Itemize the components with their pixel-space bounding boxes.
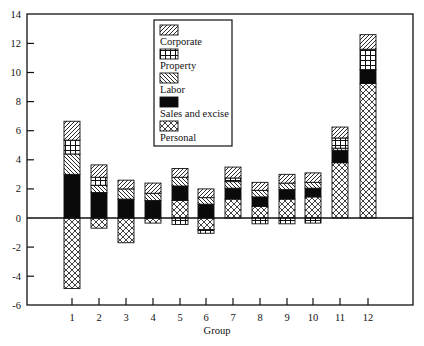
- y-tick-label: 14: [11, 9, 22, 20]
- bar-segment-personal: [332, 163, 348, 218]
- y-tick-label: -2: [12, 242, 21, 253]
- x-tick-label: 4: [150, 312, 156, 323]
- bar-segment-corporate: [198, 189, 214, 198]
- stacked-bar-chart: 14121086420-2-4-6 123456789101112 Group …: [0, 0, 424, 346]
- bar-group-4: [145, 183, 161, 223]
- bar-segment-personal: [198, 218, 214, 230]
- bar-segment-labor: [118, 189, 134, 199]
- bar-segment-labor: [172, 177, 188, 186]
- bar-segment-property: [279, 218, 295, 224]
- bar-group-2: [91, 165, 107, 228]
- bar-segment-property: [360, 49, 376, 69]
- bar-segment-property: [225, 178, 241, 182]
- x-axis: 123456789101112: [69, 298, 373, 323]
- bar-segment-sales-and-excise: [252, 197, 268, 206]
- bar-segment-property: [172, 218, 188, 225]
- y-tick-label: 0: [16, 213, 21, 224]
- bar-segment-personal: [279, 199, 295, 218]
- legend-label: Property: [160, 60, 197, 71]
- legend: CorporatePropertyLaborSales and excisePe…: [154, 20, 232, 146]
- bar-segment-personal: [64, 218, 80, 289]
- x-tick-label: 6: [203, 312, 208, 323]
- bar-segment-sales-and-excise: [145, 201, 161, 218]
- bar-segment-sales-and-excise: [64, 174, 80, 218]
- bar-segment-personal: [305, 197, 321, 218]
- x-tick-label: 7: [230, 312, 235, 323]
- bar-segment-labor: [64, 154, 80, 174]
- bar-segment-sales-and-excise: [279, 190, 295, 199]
- bar-segment-corporate: [118, 180, 134, 189]
- bar-segment-corporate: [279, 174, 295, 183]
- bar-segment-labor: [279, 183, 295, 190]
- bar-segment-sales-and-excise: [118, 199, 134, 218]
- legend-label: Corporate: [160, 36, 202, 47]
- bar-segment-personal: [91, 218, 107, 228]
- y-tick-label: 6: [16, 125, 21, 136]
- x-tick-label: 10: [308, 312, 319, 323]
- x-tick-label: 8: [257, 312, 262, 323]
- bar-group-9: [279, 174, 295, 223]
- bar-segment-property: [198, 230, 214, 234]
- bar-segment-personal: [118, 218, 134, 243]
- legend-swatch-labor: [160, 73, 178, 83]
- x-tick-label: 3: [123, 312, 128, 323]
- bar-segment-labor: [145, 193, 161, 200]
- bar-segment-personal: [360, 83, 376, 218]
- bar-segment-personal: [145, 218, 161, 223]
- x-axis-label: Group: [204, 325, 231, 336]
- legend-swatch-corporate: [160, 25, 178, 35]
- y-tick-label: 12: [11, 38, 22, 49]
- x-tick-label: 1: [69, 312, 74, 323]
- bar-group-12: [360, 35, 376, 218]
- bar-group-7: [225, 167, 241, 218]
- bar-segment-personal: [252, 206, 268, 218]
- y-tick-label: 2: [16, 183, 21, 194]
- bar-segment-personal: [225, 199, 241, 218]
- y-tick-label: 8: [16, 96, 21, 107]
- bar-segment-corporate: [332, 127, 348, 138]
- bar-segment-sales-and-excise: [305, 188, 321, 197]
- legend-label: Personal: [160, 132, 196, 143]
- bar-segment-property: [305, 218, 321, 223]
- x-tick-label: 9: [284, 312, 289, 323]
- bar-segment-labor: [225, 182, 241, 189]
- bar-segment-labor: [252, 190, 268, 197]
- y-tick-label: 4: [16, 154, 22, 165]
- x-tick-label: 11: [335, 312, 345, 323]
- bar-segment-sales-and-excise: [225, 188, 241, 199]
- bar-segment-property: [91, 177, 107, 185]
- y-tick-label: 10: [11, 67, 22, 78]
- bar-segment-sales-and-excise: [332, 150, 348, 162]
- bar-segment-sales-and-excise: [360, 70, 376, 84]
- bar-segment-property: [332, 138, 348, 148]
- bar-segment-corporate: [172, 169, 188, 178]
- bar-segment-corporate: [360, 35, 376, 50]
- legend-swatch-personal: [160, 121, 178, 131]
- bar-segment-labor: [91, 185, 107, 192]
- bar-segment-corporate: [64, 121, 80, 140]
- bar-segment-corporate: [305, 173, 321, 182]
- bar-group-1: [64, 121, 80, 288]
- x-tick-label: 2: [96, 312, 101, 323]
- bar-group-3: [118, 180, 134, 243]
- bar-segment-sales-and-excise: [198, 204, 214, 218]
- bar-group-5: [172, 169, 188, 225]
- bar-group-10: [305, 173, 321, 223]
- bar-segment-corporate: [145, 183, 161, 193]
- legend-swatch-property: [160, 49, 178, 59]
- bar-segment-labor: [198, 198, 214, 205]
- bar-segment-labor: [305, 182, 321, 188]
- bar-segment-property: [64, 140, 80, 154]
- x-tick-label: 12: [363, 312, 374, 323]
- bar-group-11: [332, 127, 348, 218]
- bar-segment-property: [252, 218, 268, 224]
- bar-segment-corporate: [252, 182, 268, 190]
- bar-segment-corporate: [225, 167, 241, 178]
- bar-segment-sales-and-excise: [91, 193, 107, 218]
- legend-label: Sales and excise: [160, 108, 229, 119]
- y-tick-label: -6: [12, 300, 21, 311]
- bar-group-6: [198, 189, 214, 233]
- x-tick-label: 5: [177, 312, 182, 323]
- y-tick-label: -4: [12, 271, 21, 282]
- legend-swatch-sales-and-excise: [160, 97, 178, 107]
